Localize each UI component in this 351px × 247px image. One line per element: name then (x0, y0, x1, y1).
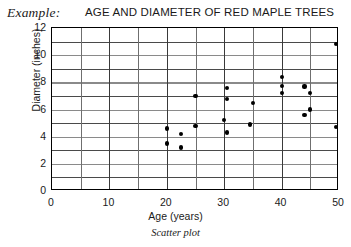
data-point (302, 113, 306, 117)
gridline-vertical (282, 28, 283, 189)
scatter-plot-figure: Example: AGE AND DIAMETER OF RED MAPLE T… (0, 0, 351, 247)
data-point (165, 141, 169, 145)
y-axis-title: Diameter (inches) (30, 10, 42, 130)
y-tick-label: 4 (24, 130, 46, 142)
x-axis-title: Age (years) (0, 210, 351, 222)
gridline-horizontal (52, 164, 337, 165)
gridline-horizontal (52, 42, 337, 43)
data-point (334, 42, 338, 46)
data-point (225, 97, 229, 101)
data-point (334, 125, 338, 129)
data-point (280, 91, 284, 95)
gridline-horizontal (52, 110, 337, 111)
gridline-horizontal (52, 69, 337, 70)
data-point (308, 91, 312, 95)
plot-area (51, 27, 338, 190)
gridline-vertical (224, 28, 225, 189)
gridline-horizontal (52, 150, 337, 151)
x-tick-label: 20 (154, 196, 178, 208)
data-point (193, 124, 197, 128)
y-tick-label: 2 (24, 157, 46, 169)
gridline-horizontal (52, 55, 337, 56)
gridline-vertical (253, 28, 254, 189)
x-tick-label: 50 (326, 196, 350, 208)
data-point (280, 84, 284, 88)
x-tick-label: 10 (96, 196, 120, 208)
data-point (280, 75, 284, 79)
gridline-vertical (81, 28, 82, 189)
gridline-vertical (138, 28, 139, 189)
x-tick-label: 0 (39, 196, 63, 208)
chart-title: AGE AND DIAMETER OF RED MAPLE TREES (85, 6, 334, 18)
data-point (179, 132, 183, 136)
data-point (222, 118, 226, 122)
gridline-horizontal (52, 177, 337, 178)
y-tick-label: 0 (24, 184, 46, 196)
data-point (193, 94, 197, 98)
gridline-vertical (167, 28, 168, 189)
data-point (165, 126, 169, 130)
data-point (308, 107, 312, 111)
data-point (302, 84, 306, 88)
data-point (225, 86, 229, 90)
figure-caption: Scatter plot (0, 227, 351, 238)
gridline-vertical (109, 28, 110, 189)
gridline-horizontal (52, 82, 337, 83)
gridline-horizontal (52, 137, 337, 138)
gridline-vertical (196, 28, 197, 189)
data-point (251, 101, 255, 105)
data-point (225, 130, 229, 134)
x-tick-label: 30 (211, 196, 235, 208)
data-point (179, 145, 183, 149)
x-tick-label: 40 (269, 196, 293, 208)
data-point (248, 122, 252, 126)
